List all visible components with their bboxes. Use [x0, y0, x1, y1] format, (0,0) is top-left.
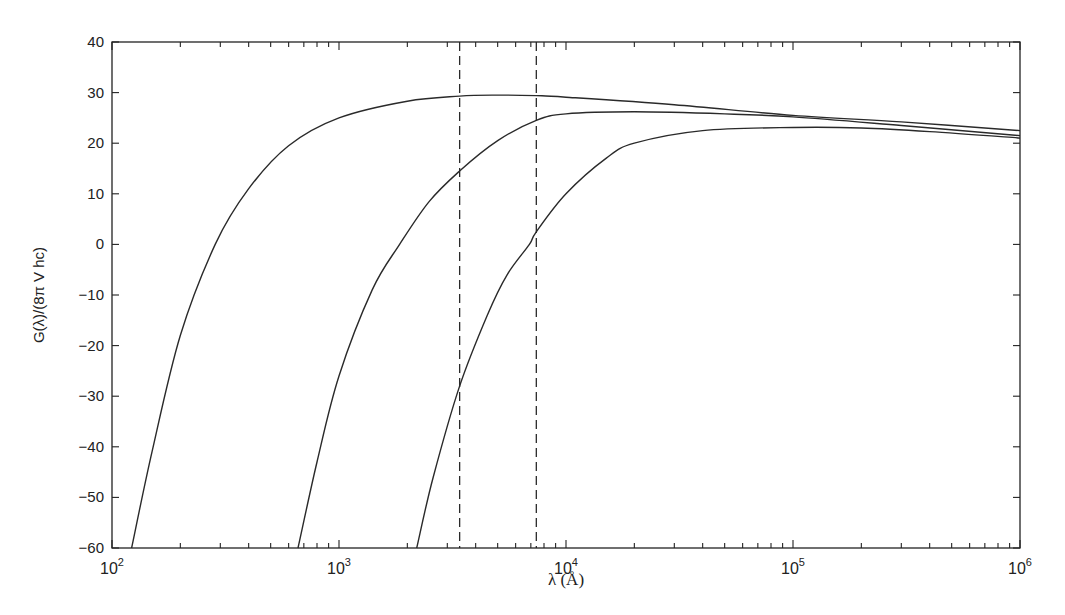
dashed-reference-lines — [460, 42, 537, 548]
x-tick-label: 103 — [327, 556, 351, 577]
series-line-2 — [298, 112, 1020, 548]
y-axis-label: G(λ)/(8π V hc) — [30, 247, 47, 343]
y-tick-label: −10 — [79, 286, 104, 303]
y-tick-label: −20 — [79, 337, 104, 354]
y-tick-label: −60 — [79, 539, 104, 556]
curves-group — [132, 95, 1020, 548]
y-axis-ticks — [112, 42, 1020, 548]
x-axis-ticks — [112, 42, 1020, 548]
x-axis-label: λ (Å) — [548, 570, 584, 589]
y-tick-label: 40 — [87, 33, 104, 50]
y-tick-label: −30 — [79, 387, 104, 404]
y-tick-label: 0 — [96, 235, 104, 252]
y-tick-label: −50 — [79, 488, 104, 505]
y-tick-label: 10 — [87, 185, 104, 202]
y-tick-label: 20 — [87, 134, 104, 151]
x-tick-label: 106 — [1008, 556, 1032, 577]
y-tick-label: 30 — [87, 84, 104, 101]
plot-frame — [112, 42, 1020, 548]
y-axis-tick-labels: 403020100−10−20−30−40−50−60 — [79, 33, 104, 556]
y-tick-label: −40 — [79, 438, 104, 455]
x-tick-label: 105 — [781, 556, 805, 577]
x-tick-label: 102 — [100, 556, 124, 577]
chart: 102103104105106 403020100−10−20−30−40−50… — [0, 0, 1065, 615]
series-line-3 — [417, 127, 1020, 548]
series-line-1 — [132, 95, 1020, 548]
